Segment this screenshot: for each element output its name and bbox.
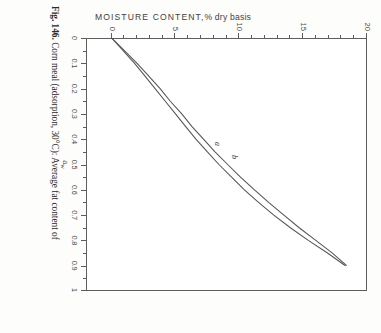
y-tick-label: 15 bbox=[299, 18, 308, 31]
x-minor-tick bbox=[83, 228, 86, 229]
curve-plot-area bbox=[86, 38, 367, 291]
x-major-tick bbox=[81, 215, 86, 216]
chart-container: a b 0 0.1 bbox=[86, 38, 367, 291]
x-major-tick bbox=[81, 190, 86, 191]
y-minor-tick bbox=[264, 35, 265, 38]
x-minor-tick bbox=[83, 101, 86, 102]
y-major-tick bbox=[175, 33, 176, 38]
y-minor-tick bbox=[289, 35, 290, 38]
figure-caption: Fig. 146. Corn meal (adsorption, 30°C): … bbox=[49, 6, 61, 326]
x-minor-tick bbox=[83, 51, 86, 52]
y-major-tick bbox=[238, 33, 239, 38]
x-minor-tick bbox=[83, 278, 86, 279]
x-tick-label: 0.8 bbox=[70, 236, 79, 246]
scanned-page: a b 0 0.1 bbox=[0, 0, 381, 333]
figure-number: Fig. 146. bbox=[50, 6, 60, 40]
curve-label-b: b bbox=[230, 155, 239, 159]
x-minor-tick bbox=[83, 253, 86, 254]
rotated-figure-block: a b 0 0.1 bbox=[0, 0, 381, 333]
x-axis-title: aw bbox=[60, 38, 71, 291]
y-axis-title: MOISTURE CONTENT,% dry basis bbox=[95, 12, 251, 22]
y-minor-tick bbox=[162, 35, 163, 38]
x-minor-tick bbox=[83, 202, 86, 203]
x-major-tick bbox=[81, 165, 86, 166]
y-minor-tick bbox=[328, 35, 329, 38]
x-minor-tick bbox=[83, 152, 86, 153]
y-major-tick bbox=[302, 33, 303, 38]
x-axis-title-subscript: w bbox=[60, 164, 67, 169]
x-tick-label: 0.1 bbox=[70, 58, 79, 68]
y-axis-title-tail: % dry basis bbox=[204, 12, 251, 22]
y-minor-tick bbox=[213, 35, 214, 38]
x-major-tick bbox=[81, 139, 86, 140]
x-tick-label: 0.7 bbox=[70, 210, 79, 220]
y-axis-title-main: MOISTURE CONTENT, bbox=[95, 12, 204, 22]
curve-a bbox=[112, 38, 346, 266]
x-minor-tick bbox=[83, 76, 86, 77]
x-minor-tick bbox=[83, 177, 86, 178]
x-major-tick bbox=[81, 63, 86, 64]
curve-label-a: a bbox=[213, 142, 222, 146]
y-minor-tick bbox=[149, 35, 150, 38]
y-minor-tick bbox=[353, 35, 354, 38]
x-tick-label: 0 bbox=[70, 36, 79, 40]
y-minor-tick bbox=[341, 35, 342, 38]
y-minor-tick bbox=[200, 35, 201, 38]
x-major-tick bbox=[81, 240, 86, 241]
y-minor-tick bbox=[136, 35, 137, 38]
x-tick-label: 0.9 bbox=[70, 261, 79, 271]
x-major-tick bbox=[81, 290, 86, 291]
x-tick-label: 0.3 bbox=[70, 109, 79, 119]
x-major-tick bbox=[81, 89, 86, 90]
x-tick-label: 0.6 bbox=[70, 185, 79, 195]
curve-b bbox=[112, 38, 347, 266]
x-tick-label: 1 bbox=[70, 288, 79, 292]
y-major-tick bbox=[366, 33, 367, 38]
figure-caption-text: Corn meal (adsorption, 30°C): Average fa… bbox=[50, 42, 60, 240]
y-tick-label: 20 bbox=[363, 18, 372, 31]
y-minor-tick bbox=[123, 35, 124, 38]
y-minor-tick bbox=[187, 35, 188, 38]
y-major-tick bbox=[111, 33, 112, 38]
y-minor-tick bbox=[277, 35, 278, 38]
x-tick-label: 0.2 bbox=[70, 84, 79, 94]
y-minor-tick bbox=[251, 35, 252, 38]
x-tick-label: 0.4 bbox=[70, 134, 79, 144]
y-minor-tick bbox=[315, 35, 316, 38]
x-major-tick bbox=[81, 38, 86, 39]
y-minor-tick bbox=[226, 35, 227, 38]
x-major-tick bbox=[81, 114, 86, 115]
x-minor-tick bbox=[83, 127, 86, 128]
x-major-tick bbox=[81, 266, 86, 267]
x-tick-label: 0.5 bbox=[70, 160, 79, 170]
